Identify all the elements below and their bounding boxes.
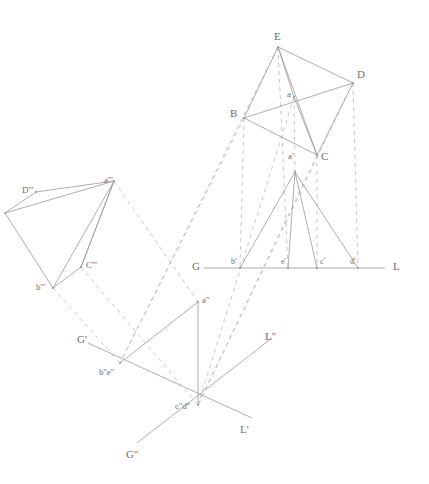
vertex-E xyxy=(277,46,279,48)
vertex-a xyxy=(293,96,295,98)
edge-x_3-b_3 xyxy=(5,213,53,288)
label-G: G xyxy=(192,261,200,272)
label-C3: C''' xyxy=(86,261,97,270)
vertex-e_p xyxy=(287,267,289,269)
edge-C_3-a_3 xyxy=(81,181,114,267)
edge-a-C xyxy=(294,97,317,155)
label-D3: D''' xyxy=(22,186,33,195)
label-a2: a'' xyxy=(202,296,209,305)
projection-line-b_3-b_2 xyxy=(53,288,120,363)
projection-line-D-c_2 xyxy=(198,83,353,405)
label-E: E xyxy=(274,31,281,42)
edge-b_3-C_3 xyxy=(53,267,81,288)
label-Gpp: G'' xyxy=(126,449,138,460)
vertex-C xyxy=(316,154,318,156)
label-c1: c' xyxy=(320,258,325,266)
vertex-c_p xyxy=(316,267,318,269)
label-d1: d' xyxy=(350,258,355,266)
vertex-b_p xyxy=(239,267,241,269)
edge-a_p-e_p xyxy=(288,172,295,268)
label-a: a xyxy=(287,90,291,99)
edge-D-C xyxy=(317,83,353,155)
label-b1: b' xyxy=(231,258,236,266)
edge-a_3-D_3 xyxy=(36,181,114,192)
edge-G_p-L_p xyxy=(88,343,252,418)
vertex-b_2 xyxy=(119,362,121,364)
vertex-c_2 xyxy=(197,404,199,406)
label-c2d2: c''d'' xyxy=(175,402,190,411)
edge-D_3-x_3 xyxy=(5,192,36,213)
vertex-b_3 xyxy=(52,287,54,289)
projection-line-E-b_2 xyxy=(120,47,278,363)
edge-G_pp-L_pp xyxy=(137,338,272,443)
label-a3: a''' xyxy=(104,176,113,185)
vertex-a_p xyxy=(294,171,296,173)
label-L: L xyxy=(393,261,400,272)
label-e1: e' xyxy=(281,258,286,266)
label-D: D xyxy=(357,69,365,80)
edge-a_2-b_2 xyxy=(120,302,198,363)
edge-E-a xyxy=(278,47,294,97)
solid-edges xyxy=(5,47,385,443)
vertex-D xyxy=(352,82,354,84)
drawing-page: EDBCaa'GLb'e'c'd'a'''D'''C'''b'''a''G'L'… xyxy=(0,0,429,484)
vertex-a_2 xyxy=(197,301,199,303)
vertex-C_3 xyxy=(80,266,82,268)
edge-a_p-d_p xyxy=(295,172,358,268)
edge-B-D xyxy=(244,83,353,118)
projection-line-C_3-c_2 xyxy=(81,267,198,405)
label-Lp: L' xyxy=(240,424,249,435)
label-a1: a' xyxy=(288,152,294,161)
label-Lpp: L'' xyxy=(265,331,276,342)
vertex-d_p xyxy=(357,267,359,269)
vertex-a_3 xyxy=(113,180,115,182)
label-C: C xyxy=(321,151,328,162)
edge-a_3-b_3 xyxy=(53,181,114,288)
projection-line-D-d_p xyxy=(353,83,358,268)
label-b3: b''' xyxy=(36,283,45,292)
vertex-D_3 xyxy=(35,191,37,193)
projection-line-B-b_p xyxy=(240,118,244,268)
projection-line-a-a_p xyxy=(294,97,295,172)
projection-line-a-c_2 xyxy=(198,97,294,405)
vertex-dots xyxy=(4,46,359,406)
label-Gp: G' xyxy=(77,334,87,345)
vertex-x_3 xyxy=(4,212,6,214)
label-B: B xyxy=(230,108,237,119)
vertex-B xyxy=(243,117,245,119)
dashed-projection-lines xyxy=(53,47,358,405)
label-b2e2: b''e'' xyxy=(99,368,114,377)
edge-E-B xyxy=(244,47,278,118)
projection-line-a_3-a_2 xyxy=(114,181,198,302)
edge-a_p-c_p xyxy=(295,172,317,268)
